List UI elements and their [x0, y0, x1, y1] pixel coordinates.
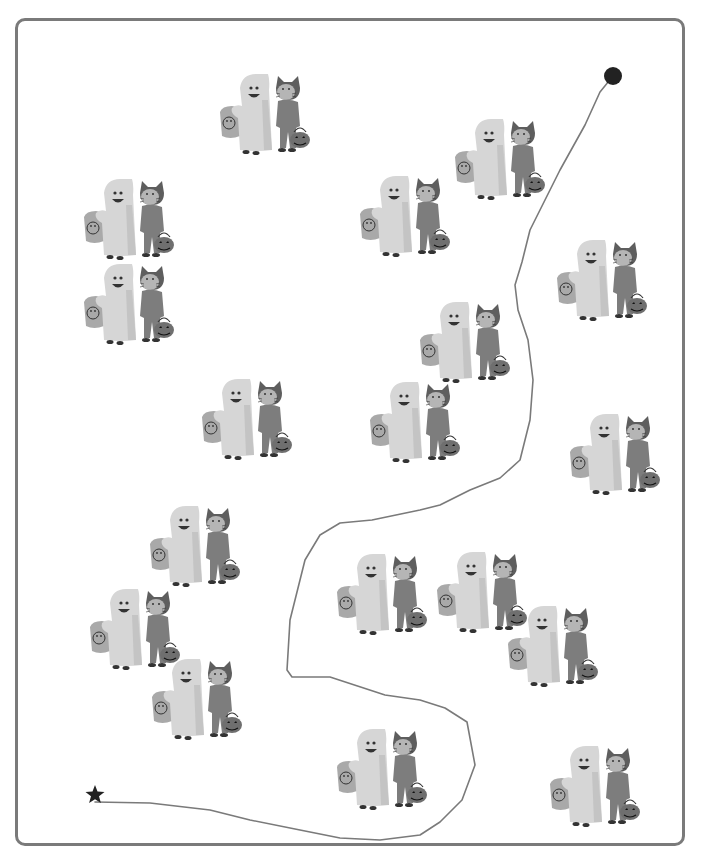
star-icon[interactable] [86, 785, 105, 803]
maze-canvas [0, 0, 702, 860]
dot-icon[interactable] [604, 67, 622, 85]
trail-path [95, 76, 613, 840]
